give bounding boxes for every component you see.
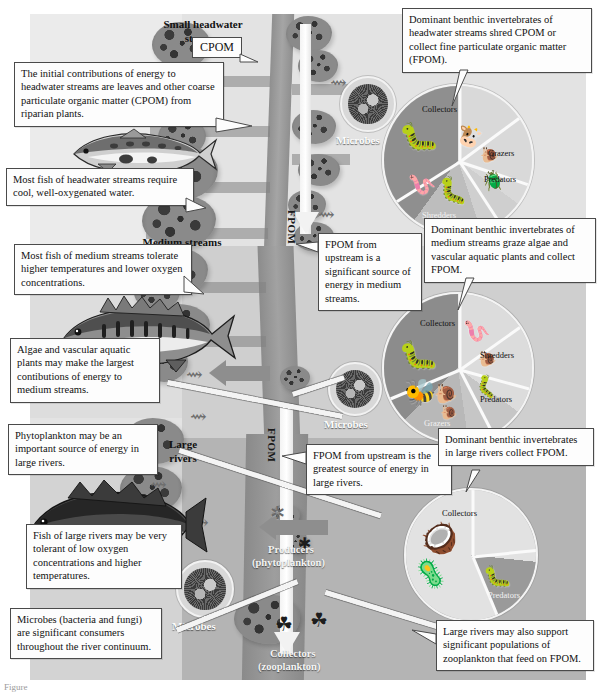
grazer-snail-icon: 🐌 [434,384,458,403]
pie2-label-predators: Predators [480,394,512,404]
tree-canopy [292,110,336,144]
mussel-icon: 🥥 [418,522,459,557]
pie-dividers [384,86,534,236]
callout-invertebrates-headwater: Dominant benthic invertebrates of headwa… [402,8,592,73]
cpom-tag: CPOM [192,37,242,58]
pie2-label-grazers: Grazers [424,418,450,428]
collectors-label-l2: (zooplankton) [258,661,320,674]
callout-invertebrates-large: Dominant benthic invertebrates in large … [438,428,594,466]
pie2-label-collectors: Collectors [420,318,455,328]
callout-medium-fish: Most fish of medium streams tolerate hig… [14,244,192,295]
callout-headwater-fish: Most fish of headwater streams require c… [6,168,194,206]
callout-phytoplankton: Phytoplankton may be an important source… [8,424,158,475]
fpom-label-large: FPOM [266,428,278,462]
callout-invertebrates-medium: Dominant benthic invertebrates of medium… [424,218,596,283]
microbe-circle-medium [328,362,382,416]
grazer-beetle-icon: 🐝 [404,380,436,406]
callout-algae-plants: Algae and vascular aquatic plants may ma… [10,338,160,403]
predator-insect-icon: 🐛 [482,564,512,590]
pie3-label-collectors: Collectors [442,508,477,518]
bare-tree-icon: ⇝ [318,204,335,224]
bare-tree-icon: ⇝ [190,406,207,426]
zone-title-headwater-l1: Small headwater [138,18,268,31]
callout-large-river-fish: Fish of large rivers may be very toleran… [26,524,182,589]
callout-fpom-large: FPOM from upstream is the greatest sourc… [306,444,452,495]
collector-insect-icon: 🐛 [397,336,439,373]
pie-chart-headwater-invertebrates: 🐛 🐮 🐌 🪲 🪱 🐛 Collectors Grazers Predators… [382,84,534,236]
pie2-label-shredders: Shredders [480,350,514,360]
pie1-label-collectors: Collectors [422,104,457,114]
fpom-label-headwater: FPOM [286,210,298,244]
microbes-label-medium: Microbes [324,418,368,430]
callout-cpom-energy: The initial contributions of energy to h… [14,62,224,127]
callout-fpom-medium: FPOM from upstream is a significant sour… [318,233,422,311]
microbes-label-headwater: Microbes [336,134,380,146]
pie-chart-large-river-invertebrates: 🥥 🦠 🐛 Collectors Predators [404,488,538,622]
collector-insect-icon: 🐛 [437,176,470,204]
pie1-label-grazers: Grazers [488,148,514,158]
figure-caption: Figure [4,682,28,692]
pie-chart-medium-invertebrates: 🐛 🪱 🐌 🐛 🐝 🐌 🐌 Collectors Shredders Preda… [382,292,534,444]
zooplankton-icon: ☘ [275,614,293,634]
callout-microbes-consumers: Microbes (bacteria and fungi) are signif… [10,608,162,659]
zooplankton-icon: ☘ [310,610,328,630]
collectors-label-l1: Collectors [270,648,315,661]
phytoplankton-icon: ✲ [270,504,285,522]
pie3-label-predators: Predators [488,590,520,600]
worm-icon: 🦠 [412,559,449,591]
fpom-flow-arrow-headwater [300,24,311,234]
river-continuum-figure: ⇝ ⇝ ⇝ ⇝ ⇝ ⇝ ⇝ FPOM FPOM FPOM Microbes Mi… [0,0,599,692]
microbe-cluster-icon [348,84,388,124]
producers-label-l1: Producers [268,544,314,557]
pie1-label-predators: Predators [484,174,516,184]
producers-label-l2: (phytoplankton) [252,557,325,570]
callout-zooplankton: Large rivers may also support significan… [436,620,594,671]
